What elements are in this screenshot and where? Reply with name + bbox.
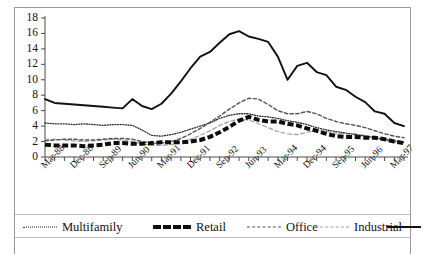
y-tick-label: 4 [16,120,38,132]
y-tick-label: 6 [16,105,38,117]
legend-label: Multifamily [62,221,122,234]
y-tick-label: 2 [16,136,38,148]
y-tick-label: 12 [16,58,38,70]
chart-figure: 024681012141618 Mar-88Dec-88Sep-89Jun-90… [0,0,433,274]
legend-item[interactable]: Multifamily [23,215,122,239]
legend-swatch-retail [153,222,191,232]
legend-swatch-series5 [387,222,421,232]
legend-swatch-industrial [315,222,349,232]
legend-item[interactable]: Office [247,215,318,239]
y-tick-label: 0 [16,151,38,163]
legend-item[interactable] [387,215,426,239]
y-tick-label: 14 [16,43,38,55]
legend-item[interactable]: Retail [153,215,226,239]
legend-label: Office [286,221,318,234]
legend-swatch-multifamily [23,222,57,232]
legend-subband [15,238,410,254]
y-tick-label: 16 [16,27,38,39]
y-tick-label: 8 [16,89,38,101]
y-tick-label: 10 [16,74,38,86]
legend-swatch-office [247,222,281,232]
legend-label: Retail [196,221,226,234]
chart-legend: MultifamilyRetailOfficeIndustrial [15,214,410,238]
y-tick-label: 18 [16,12,38,24]
